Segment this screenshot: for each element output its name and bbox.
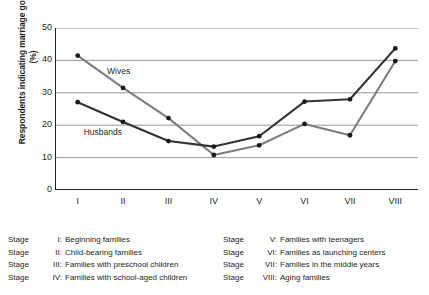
stage-word: Stage: [8, 234, 38, 247]
stage-word: Stage: [223, 272, 253, 285]
datapoint-husbands-I: [75, 100, 80, 105]
x-tick-VIII: VIII: [389, 196, 403, 206]
stage-description: Aging families: [277, 272, 330, 285]
y-tick-40: 40: [30, 55, 52, 64]
stage-legend-item: StageV:Families with teenagers: [223, 234, 429, 247]
stage-description: Beginning families: [62, 234, 130, 247]
y-tick-30: 30: [30, 88, 52, 97]
datapoint-husbands-VIII: [393, 46, 398, 51]
stage-numeral: I:: [38, 234, 62, 247]
y-tick-0: 0: [30, 185, 52, 194]
datapoint-husbands-II: [121, 120, 126, 125]
stage-legend-item: StageVI:Families as launching centers: [223, 247, 429, 260]
datapoint-husbands-III: [166, 139, 171, 144]
datapoint-wives-V: [257, 143, 262, 148]
y-tick-10: 10: [30, 153, 52, 162]
stage-word: Stage: [8, 259, 38, 272]
datapoint-husbands-IV: [211, 144, 216, 149]
x-axis-tick-labels: IIIIIIIVVVIVIIVIII: [55, 196, 418, 212]
x-tick-II: II: [121, 196, 126, 206]
series-line-husbands: [78, 48, 396, 146]
series-label-wives: Wives: [107, 66, 130, 76]
datapoint-wives-VIII: [393, 59, 398, 64]
stage-legend-column-right: StageV:Families with teenagersStageVI:Fa…: [223, 234, 429, 284]
stage-numeral: VI:: [253, 247, 277, 260]
y-axis-tick-labels: 50403020100: [28, 0, 52, 220]
stage-legend-column-left: StageI:Beginning familiesStageII:Child-b…: [8, 234, 223, 284]
datapoint-husbands-VI: [302, 99, 307, 104]
stage-legend-item: StageII:Child-bearing families: [8, 247, 223, 260]
stage-description: Families with teenagers: [277, 234, 364, 247]
chart-svg: [55, 28, 418, 190]
marriage-satisfaction-line-chart: Respondents indicating marriage going we…: [0, 0, 429, 295]
datapoint-wives-VII: [348, 133, 353, 138]
x-tick-VI: VI: [300, 196, 309, 206]
stage-legend-item: StageI:Beginning families: [8, 234, 223, 247]
datapoint-wives-II: [121, 86, 126, 91]
y-tick-50: 50: [30, 23, 52, 32]
datapoint-wives-IV: [211, 153, 216, 158]
stage-numeral: III:: [38, 259, 62, 272]
stage-numeral: VIII:: [253, 272, 277, 285]
datapoint-wives-III: [166, 116, 171, 121]
stage-word: Stage: [8, 247, 38, 260]
y-tick-20: 20: [30, 120, 52, 129]
x-tick-IV: IV: [210, 196, 219, 206]
datapoint-husbands-V: [257, 134, 262, 139]
stage-numeral: IV:: [38, 272, 62, 285]
stage-numeral: II:: [38, 247, 62, 260]
stage-word: Stage: [223, 247, 253, 260]
datapoint-wives-VI: [302, 122, 307, 127]
stage-description: Child-bearing families: [62, 247, 142, 260]
stage-numeral: VII:: [253, 259, 277, 272]
x-tick-I: I: [76, 196, 79, 206]
stage-word: Stage: [223, 259, 253, 272]
stage-word: Stage: [8, 272, 38, 285]
stage-word: Stage: [223, 234, 253, 247]
stage-description: Families as launching centers: [277, 247, 385, 260]
stage-legend-item: StageVII:Families in the middle years: [223, 259, 429, 272]
stage-description: Families with preschool children: [62, 259, 178, 272]
stage-legend-item: StageIII:Families with preschool childre…: [8, 259, 223, 272]
y-axis-label-container: Respondents indicating marriage going we…: [0, 18, 30, 198]
plot-area: Wives Husbands: [55, 28, 418, 190]
datapoint-wives-I: [75, 53, 80, 58]
stage-numeral: V:: [253, 234, 277, 247]
stage-description: Families in the middle years: [277, 259, 379, 272]
x-tick-V: V: [256, 196, 262, 206]
x-tick-III: III: [165, 196, 173, 206]
x-tick-VII: VII: [344, 196, 355, 206]
stage-description: Families with school-aged children: [62, 272, 187, 285]
stage-legend-item: StageIV:Families with school-aged childr…: [8, 272, 223, 285]
datapoint-husbands-VII: [348, 97, 353, 102]
stage-legend-item: StageVIII:Aging families: [223, 272, 429, 285]
series-label-husbands: Husbands: [84, 127, 122, 137]
